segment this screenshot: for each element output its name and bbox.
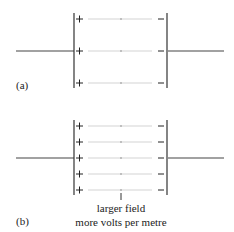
- field-arrow-marks: [120, 125, 122, 191]
- annotation-line-2: more volts per metre: [51, 215, 191, 229]
- panel-b-label: (b): [16, 215, 29, 227]
- plus-signs: [76, 123, 83, 194]
- panel-a: [16, 13, 224, 88]
- minus-signs: [158, 126, 164, 190]
- capacitor-diagram: [0, 0, 234, 232]
- annotation-line-1: larger field: [51, 201, 191, 215]
- plus-signs: [76, 16, 83, 87]
- field-arrow-marks: [120, 18, 122, 84]
- panel-a-label: (a): [16, 79, 28, 91]
- panel-b: [16, 120, 224, 200]
- minus-signs: [158, 19, 164, 83]
